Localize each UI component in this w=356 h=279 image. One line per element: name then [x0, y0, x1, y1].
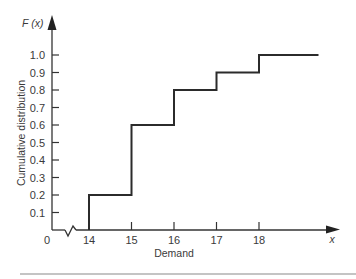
y-tick-label: 0.2	[30, 189, 45, 201]
y-axis-arrow-icon	[48, 15, 57, 30]
y-axis-symbol: F (x)	[22, 17, 43, 29]
axis-break-icon	[65, 226, 76, 236]
y-axis-label: Cumulative distribution	[15, 80, 27, 186]
y-ticks: 0.10.20.30.40.50.60.70.80.91.0	[30, 49, 59, 219]
y-tick-label: 0.7	[30, 102, 45, 114]
y-axis: F (x) 0.10.20.30.40.50.60.70.80.91.0 Cum…	[15, 15, 59, 230]
x-tick-label: 16	[168, 234, 180, 246]
y-tick-label: 0.5	[30, 137, 45, 149]
y-tick-label: 0.6	[30, 119, 45, 131]
x-ticks: 1415161718	[83, 222, 265, 246]
y-tick-label: 1.0	[30, 49, 45, 61]
x-tick-label: 17	[210, 234, 222, 246]
cdf-step-line	[89, 55, 319, 230]
x-tick-label: 18	[253, 234, 265, 246]
x-axis-symbol: x	[328, 233, 335, 245]
y-tick-label: 0.3	[30, 172, 45, 184]
origin-label: 0	[44, 234, 50, 246]
x-tick-label: 15	[125, 234, 137, 246]
y-tick-label: 0.1	[30, 207, 45, 219]
y-tick-label: 0.8	[30, 84, 45, 96]
x-axis-label: Demand	[154, 247, 194, 259]
x-tick-label: 14	[83, 234, 95, 246]
cdf-chart: F (x) 0.10.20.30.40.50.60.70.80.91.0 Cum…	[0, 0, 356, 279]
y-tick-label: 0.9	[30, 67, 45, 79]
y-tick-label: 0.4	[30, 154, 45, 166]
